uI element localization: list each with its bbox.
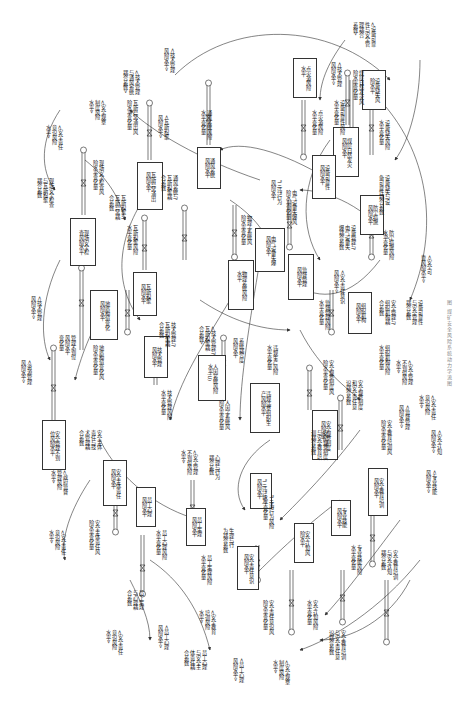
rate-ignition-source: 点火源风险 水平变化量 — [311, 110, 323, 134]
rate-equipment-missing: 设备缺失风险 水平变化量 — [378, 120, 390, 149]
rate-employee-psychology: 员工心理风险 水平变化量 — [155, 530, 167, 559]
aux-gas-accumulation-ref: <瓦斯积聚 风险水平> — [157, 115, 169, 138]
stock-geological-structure: 地质构造变化 风险水平 — [90, 290, 118, 340]
stock-ventilation-system: 通风系统 风险水平 — [197, 147, 221, 189]
stock-coal-spontaneous-combustion: 煤层自然发火 风险水平 — [333, 127, 359, 177]
rate-organization: 组织机构风险 水平变化量 — [378, 345, 390, 374]
rate-coal-spontaneous-combustion: 煤层自然发火风 险水平变化量 — [352, 70, 364, 104]
aux-employee-psychology-ref-2: <员工心理 风险水平> — [232, 658, 244, 681]
stock-organization: 组织机构 风险水平 — [348, 292, 372, 334]
aux-safety-management-inadequate-ref-2: <安全管理 不到位风险 水平> — [395, 360, 412, 384]
rate-geological-structure: 地质构造变化风 险水平变化量 — [92, 345, 104, 379]
aux-supervision-management-ref: <监督管理 风险水平> — [398, 405, 410, 428]
stock-safety-management-inadequate: 安全管理不到 位风险水平 — [42, 420, 66, 470]
rate-illegal-production: 违规生产风险 水平变化量 — [266, 345, 278, 374]
figure-caption: 图 煤矿安全风险系统动力学流图 — [446, 300, 453, 387]
aux-inspection-gas-coupling: 现场安全检查 与瓦斯积聚 耦合系数 — [36, 178, 53, 207]
aux-safety-responsibility-ref-3: <安全责任 意识风险 水平> — [48, 530, 65, 553]
rate-site-safety-inspection: 现场安全检查风 险水平变化量 — [92, 160, 104, 194]
rate-safety-regulations: 安全规章制度风 险水平变化量 — [322, 360, 334, 394]
rate-three-violations: "三违"行为风险 水平变化量 — [262, 495, 274, 528]
stock-employee-physiology: 员工生理 风险水平 — [186, 508, 206, 546]
rate-electrical-explosion: 电气设备失爆风 险水平变化量 — [285, 190, 297, 224]
aux-employee-psychology-ref-1: <员工心理 风险水平> — [157, 625, 169, 648]
stock-safety-main-responsibility: 安全主体责任 风险水平 — [103, 460, 127, 506]
aux-equipment-electrical-coupling: 设备管理与 电气设备失 爆耦合系数 — [338, 225, 355, 249]
system-dynamics-stock-flow-diagram: 现场安全检 查风险水平 瓦斯异常涌出 风险水平 通风系统 风险水平 点火源风险 … — [0, 0, 464, 702]
rate-physical-subsystem: 物理子系统风 险水平变化量 — [240, 215, 252, 244]
rate-dust-prevention: 防尘措施风险 水平变化量 — [382, 230, 394, 259]
rate-professional-skills: 专业技能风险 水平变化量 — [350, 545, 362, 574]
aux-safety-management-inadequate-ref-1: <安全管理 不到位风险 水平> — [180, 450, 197, 474]
stock-physical-system: 物理系统风险 水平 — [228, 260, 254, 310]
rate-ventilation-system: 通风系统风险 水平变化量 — [200, 110, 212, 139]
rate-safety-main-responsibility: 安全主体责任风 险水平变化量 — [88, 520, 100, 554]
stock-professional-skills: 专业技能 风险水平 — [331, 500, 351, 536]
aux-psychology-behavior-coupling: 心理与行为 耦合系数 — [208, 455, 220, 479]
stock-gas-accumulation: 瓦斯积聚 风险水平 — [133, 272, 157, 316]
aux-regulations-education-coupling: 安全规章制度 与安全教育培 训耦合系数 — [310, 430, 327, 459]
rate-safety-responsibility-awareness: 安全责任意识风 险水平变化量 — [262, 600, 274, 634]
aux-main-responsibility-tech-coupling: 安全主体 责任与技 术管理耦 合系数 — [78, 430, 101, 449]
rate-gas-abnormal-emission: 瓦斯异常涌出风 险水平变化量 — [126, 100, 138, 134]
aux-safety-responsibility-ref-4: <安全责任 意识风险 水平> — [105, 630, 122, 653]
stock-electrical-explosion: 电气设备失爆 风险水平 — [255, 228, 285, 272]
stock-safety-responsibility-awareness: 安全责任意识 风险水平 — [237, 546, 259, 590]
aux-tech-gas-coupling-ref: <技术管理与 瓦斯积聚耦 合系数> — [198, 326, 215, 354]
aux-safety-regulations-ref-2: <安全规章 制度风险 水平> — [272, 660, 289, 683]
stock-employee-psychology: 员工心理 风险水平 — [136, 487, 156, 527]
aux-tech-management-ref-3: <技术管理 风险水平> — [30, 296, 42, 319]
aux-professional-skills-ref: <专业技能 风险水平> — [425, 470, 437, 493]
aux-three-violations-level: "三违"行为 风险水平 — [270, 180, 282, 204]
aux-regulations-responsibility-coupling: 安全规章制度 和安全责任意 识耦合系数 — [345, 380, 362, 409]
aux-tech-gas-coupling: 技术管理与 瓦斯积聚耦 合系数 — [158, 322, 175, 346]
rate-employee-physiology: 员工生理风险 水平变化量 — [200, 555, 212, 584]
stock-supervision-management: 监督管理 风险水平 — [288, 254, 314, 300]
stock-safety-cognition: 安全认知风 险水平 — [294, 523, 314, 563]
stock-ignition-source: 点火源风险 水平 — [293, 58, 317, 98]
aux-resource-management-ref: <资源管理 风险水平> — [20, 360, 32, 383]
aux-tech-management-ref-1: <技术管理 风险水平> — [163, 48, 175, 71]
aux-tech-ventilation-coupling-ref: <技术管理 与通风系统 耦合系数> — [122, 70, 139, 94]
rate-technical-management: 技术管理风险 水平变化量 — [160, 390, 172, 419]
aux-physiology-psychology-coupling: 员工生理 与心理耦 合系数 — [126, 590, 143, 609]
aux-safety-reliability-ref: <安全可 靠风险水平> — [420, 255, 432, 283]
aux-physiology-behavior-coupling: 生理与行 为耦合系数 — [222, 528, 234, 552]
aux-gas-accumulation-abnormal-coupling: 瓦斯积聚与 瓦斯异常耦 合系数 — [108, 195, 125, 219]
aux-government-supervision-ref: <政府监督 管理风险 水平> — [50, 470, 67, 493]
aux-equipment-management-coupling-ref: <设备可靠 性与安全管 理耦合 系数> — [352, 22, 375, 46]
aux-education-responsibility-coupling: 安全教育培训 与安全责任意 识耦合系数 — [328, 630, 345, 659]
aux-safety-responsibility-ref-5: <安全责任 意识风险 水平> — [418, 395, 435, 418]
aux-equipment-missing-reliability-coupling: 设备缺失与设 备可靠性耦合系数 — [378, 175, 390, 213]
aux-tech-management-ref-2: <技术管理 风险水平> — [330, 62, 342, 85]
rate-safety-education-training: 安全教育培训风 险水平变化量 — [380, 420, 392, 454]
rate-gas-accumulation: 瓦斯积聚风险 水平变化量 — [126, 225, 138, 254]
aux-safety-regulations-ref-1: <安全规章 制度风险 水平> — [88, 100, 105, 123]
aux-psychology-responsibility-coupling: 员工心理 与安全主 体责任耦 合系数 — [183, 650, 206, 669]
aux-safety-responsibility-ref-1: <安全责任 意识风险 水平> — [45, 125, 62, 148]
rate-management-inadequate: 管理不到位 风险水平 变化量 — [58, 335, 75, 359]
stock-human-system: 人因系统风险 水平(U) — [198, 355, 226, 401]
rate-human-subsystem: 人因子系统风 险水平变化量 — [218, 400, 230, 429]
stock-safety-education-training: 安全教育培训 风险水平 — [368, 468, 388, 516]
stock-equipment-missing: 设备缺失风 险水平 — [362, 70, 386, 110]
aux-safety-responsibility-ref-2: <安全责任意识 风险水平> — [333, 270, 345, 303]
stock-equipment-reliability: 设备可靠性 风险水平 — [312, 155, 336, 199]
rate-safety-cognition: 安全认知风险 水平变化量 — [306, 600, 318, 629]
aux-education-cognition-coupling: 安全教育培训 与安全认知 耦合系数 — [380, 550, 397, 579]
rate-equipment-reliability: 设备可靠性风险 水平变化量 — [333, 100, 345, 134]
aux-equipment-safety-coupling: 设备可靠性 与安全管理 耦合系数 — [405, 300, 422, 324]
rate-supervision-management: 监督管理风险 水平变化量 — [318, 300, 330, 329]
aux-ventilation-gas-coupling: 通风系统与 瓦斯积聚耦 合系数 — [160, 175, 177, 199]
aux-safety-org-coupling: 安全管理与 组织机构耦 合系数 — [378, 300, 395, 324]
stock-site-safety-inspection: 现场安全检 查风险水平 — [70, 218, 96, 266]
stock-illegal-production: 违规违章组织生 产风险水平 — [250, 383, 280, 433]
aux-safety-cognition-ref: <安全认知 风险水平> — [430, 430, 442, 453]
aux-system-coupling-level: 系统耦合度 风险水平 — [232, 338, 244, 362]
aux-safety-education-ref: <安全教育 培训风险 水平> — [198, 610, 215, 633]
